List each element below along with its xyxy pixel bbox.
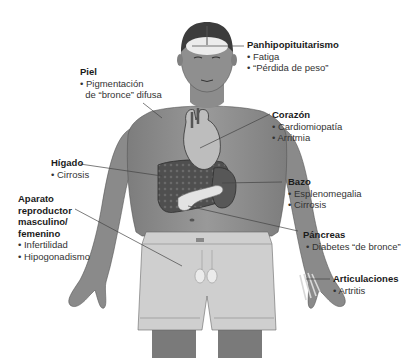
label-spleen-item-2: Cirrosis xyxy=(288,199,362,211)
label-pancreas-title: Páncreas xyxy=(303,229,401,241)
label-spleen-item-1: Esplenomegalia xyxy=(288,188,362,200)
label-pancreas: Páncreas Diabetes “de bronce” xyxy=(303,229,401,252)
gonad-left xyxy=(195,269,205,283)
label-joints-item-1: Artritis xyxy=(333,285,398,297)
label-reproductive-title-4: femenino xyxy=(18,228,90,240)
label-pituitary: Panhipopituitarismo Fatiga “Pérdida de p… xyxy=(247,39,339,74)
label-skin: Piel Pigmentación de “bronce” difusa xyxy=(80,66,162,101)
label-skin-item-1-cont: de “bronce” difusa xyxy=(80,89,162,101)
navel xyxy=(190,219,195,222)
label-liver-item-1: Cirrosis xyxy=(51,169,89,181)
label-reproductive-item-2: Hipogonadismo xyxy=(18,251,90,263)
label-skin-title: Piel xyxy=(80,66,162,78)
label-reproductive-title-3: masculino/ xyxy=(18,216,90,228)
label-reproductive-item-1: Infertilidad xyxy=(18,239,90,251)
label-heart-item-2: Arritmia xyxy=(272,132,342,144)
label-pituitary-item-2: “Pérdida de peso” xyxy=(247,62,339,74)
label-reproductive-title-2: reproductor xyxy=(18,205,90,217)
label-pituitary-title: Panhipopituitarismo xyxy=(247,39,339,51)
label-skin-item-1: Pigmentación xyxy=(80,78,162,90)
label-spleen: Bazo Esplenomegalia Cirrosis xyxy=(288,176,362,211)
shorts xyxy=(138,232,276,330)
head xyxy=(177,22,237,92)
label-joints-title: Articulaciones xyxy=(333,273,398,285)
label-heart-title: Corazón xyxy=(272,109,342,121)
label-joints: Articulaciones Artritis xyxy=(333,273,398,296)
label-spleen-title: Bazo xyxy=(288,176,362,188)
label-heart-item-1: Cardiomiopatía xyxy=(272,121,342,133)
label-reproductive: Aparato reproductor masculino/ femenino … xyxy=(18,193,90,262)
label-pancreas-item-1: Diabetes “de bronce” xyxy=(303,241,401,253)
label-reproductive-title-1: Aparato xyxy=(18,193,90,205)
label-liver-title: Hígado xyxy=(51,157,89,169)
label-pituitary-item-1: Fatiga xyxy=(247,51,339,63)
gonad-right xyxy=(207,269,217,283)
label-liver: Hígado Cirrosis xyxy=(51,157,89,180)
label-heart: Corazón Cardiomiopatía Arritmia xyxy=(272,109,342,144)
